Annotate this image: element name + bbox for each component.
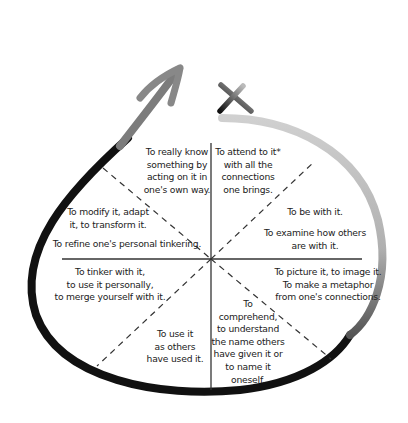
sector-label-tinker-merge: To tinker with it, to use it personally,… xyxy=(48,266,172,304)
sector-label-be-with-it: To be with it. xyxy=(270,206,360,219)
sector-label-act-own-way: To really know something by acting on it… xyxy=(143,146,211,196)
x-mark-icon xyxy=(220,85,251,111)
sector-label-attend-connections: To attend to it* with all the connection… xyxy=(212,146,284,196)
sector-label-refine-tinkering: To refine one's personal tinkering. xyxy=(42,238,212,251)
sector-label-comprehend-name: To comprehend, to understand the name ot… xyxy=(208,298,288,386)
sector-label-use-as-others: To use it as others have used it. xyxy=(140,328,210,366)
sector-label-examine-others: To examine how others are with it. xyxy=(255,227,375,252)
sector-label-modify-adapt: To modify it, adapt it, to transform it. xyxy=(58,206,158,231)
arrow-shaft xyxy=(120,70,178,146)
